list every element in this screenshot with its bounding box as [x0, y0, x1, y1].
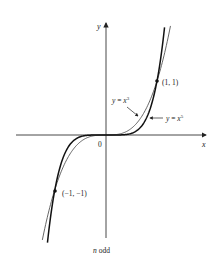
point-label-1-1: (1, 1): [162, 78, 179, 87]
y-axis-label: y: [96, 22, 101, 31]
point-label-neg1-neg1: (−1, −1): [62, 189, 87, 198]
annotation-x-fifth: y = x5: [150, 114, 184, 123]
point-neg1-neg1: [53, 189, 57, 193]
svg-text:y = x3: y = x3: [111, 96, 130, 105]
point-1-1: [155, 79, 159, 83]
svg-text:y = x5: y = x5: [165, 114, 184, 123]
x-axis-label: x: [201, 140, 206, 149]
annotation-x-cubed: y = x3: [111, 96, 138, 116]
chart-canvas: (1, 1) (−1, −1) y x 0 y = x3 y = x5 n od…: [0, 0, 220, 265]
origin-label: 0: [98, 140, 102, 149]
caption: n odd: [93, 246, 110, 255]
